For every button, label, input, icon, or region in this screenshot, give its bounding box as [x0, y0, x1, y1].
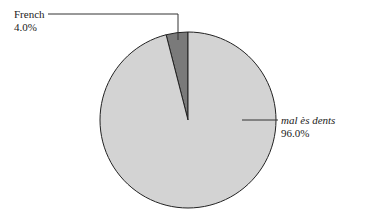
label-french-name: French — [14, 8, 45, 20]
label-mal-es-dents-percent: 96.0% — [281, 127, 309, 139]
label-mal-es-dents-name: mal ès dents — [281, 114, 335, 126]
leader-line-french — [48, 14, 178, 40]
pie-chart: French 4.0% mal ès dents 96.0% — [0, 0, 376, 214]
label-french-percent: 4.0% — [14, 21, 37, 33]
